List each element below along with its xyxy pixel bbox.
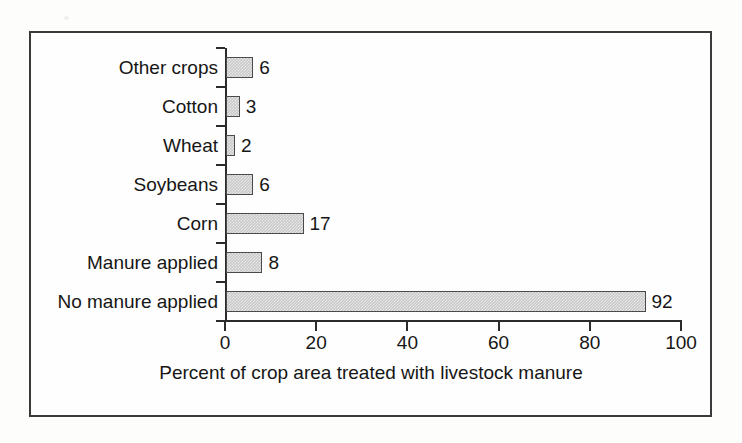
- scanned-page: 020406080100 Other cropsCottonWheatSoybe…: [0, 0, 742, 443]
- x-axis-tick: [224, 322, 226, 331]
- y-axis-tick: [216, 47, 225, 49]
- bar: [226, 57, 253, 78]
- y-axis-tick: [216, 125, 225, 127]
- category-label: Soybeans: [0, 175, 218, 195]
- x-axis-tick: [315, 322, 317, 331]
- bar: [226, 174, 253, 195]
- y-axis-tick: [216, 242, 225, 244]
- bar: [226, 135, 235, 156]
- x-axis-tick: [406, 322, 408, 331]
- y-axis-tick: [216, 86, 225, 88]
- x-axis-tick-label: 40: [377, 332, 437, 354]
- category-label: Corn: [0, 214, 218, 234]
- bar-value-label: 92: [652, 292, 673, 312]
- x-axis-tick: [589, 322, 591, 331]
- y-axis-tick: [216, 203, 225, 205]
- category-label: Other crops: [0, 58, 218, 78]
- bar-value-label: 17: [310, 214, 331, 234]
- x-axis-tick-label: 20: [286, 332, 346, 354]
- bar-value-label: 3: [246, 97, 257, 117]
- bar: [226, 96, 240, 117]
- y-axis-tick: [216, 164, 225, 166]
- bar: [226, 213, 304, 234]
- category-label: Manure applied: [0, 253, 218, 273]
- y-axis-tick: [216, 281, 225, 283]
- category-label: Cotton: [0, 97, 218, 117]
- x-axis-title: Percent of crop area treated with livest…: [0, 362, 742, 384]
- bar-value-label: 8: [268, 253, 279, 273]
- x-axis-tick: [498, 322, 500, 331]
- x-axis-tick: [680, 322, 682, 331]
- bar-chart-plot: 020406080100 Other cropsCottonWheatSoybe…: [0, 0, 742, 443]
- bar-value-label: 6: [259, 175, 270, 195]
- bar-value-label: 2: [241, 136, 252, 156]
- x-axis-tick-label: 100: [651, 332, 711, 354]
- x-axis-tick-label: 80: [560, 332, 620, 354]
- x-axis-tick-label: 0: [195, 332, 255, 354]
- category-label: No manure applied: [0, 292, 218, 312]
- bar: [226, 252, 262, 273]
- x-axis-tick-label: 60: [469, 332, 529, 354]
- bar: [226, 291, 646, 312]
- x-axis-line: [225, 320, 682, 322]
- category-label: Wheat: [0, 136, 218, 156]
- bar-value-label: 6: [259, 58, 270, 78]
